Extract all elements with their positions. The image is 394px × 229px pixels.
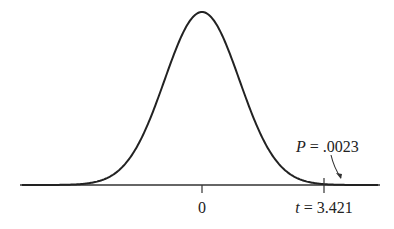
center-label: 0 [198,199,206,216]
density-curve [22,12,378,185]
arrow-head-icon [336,173,342,179]
t-value-label: t = 3.421 [295,199,352,216]
t-distribution-chart: 0 t = 3.421 P = .0023 [0,0,394,229]
p-value-label: P = .0023 [295,138,359,155]
